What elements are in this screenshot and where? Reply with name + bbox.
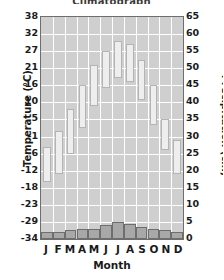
precipitation-bar: [65, 230, 77, 239]
precipitation-bar: [136, 227, 148, 239]
y-axis-right-tick-label: 65: [186, 11, 220, 21]
y-axis-left-tick-label: -18: [2, 182, 38, 192]
temperature-range-bar: [43, 147, 51, 182]
climatograph-figure: Climatograph 3832272116105-1-6-12-18-23-…: [0, 0, 223, 280]
gridline-vertical: [53, 17, 54, 239]
gridline-vertical: [171, 17, 172, 239]
y-axis-left-tick-label: 32: [2, 28, 38, 38]
gridline-vertical: [88, 17, 89, 239]
y-axis-right-tick-label: 50: [186, 62, 220, 72]
y-axis-right-tick-label: 15: [186, 182, 220, 192]
y-axis-right-tick-label: 40: [186, 96, 220, 106]
precipitation-bar: [112, 222, 124, 239]
y-axis-right-tick-label: 25: [186, 148, 220, 158]
precipitation-bar: [77, 229, 89, 239]
x-axis-tick-label: M: [64, 243, 76, 257]
x-axis-tick-label: J: [112, 243, 124, 257]
precipitation-bar: [171, 232, 183, 239]
gridline-vertical: [148, 17, 149, 239]
y-axis-right-ticks: 65605550454035302520151050: [186, 0, 220, 280]
x-axis-tick-label: S: [136, 243, 148, 257]
y-axis-left-tick-label: -23: [2, 199, 38, 209]
x-axis-tick-label: J: [40, 243, 52, 257]
temperature-range-bar: [173, 140, 181, 174]
y-axis-left-tick-label: -34: [2, 233, 38, 243]
temperature-range-bar: [79, 85, 87, 128]
temperature-range-bar: [126, 44, 134, 82]
gridline-vertical: [124, 17, 125, 239]
y-axis-right-tick-label: 60: [186, 28, 220, 38]
y-axis-left-tick-label: 21: [2, 62, 38, 72]
y-axis-right-tick-label: 0: [186, 233, 220, 243]
precipitation-bar: [53, 232, 65, 239]
precipitation-bar: [124, 224, 136, 239]
precipitation-bar: [148, 229, 160, 239]
x-axis-ticks: JFMAMJJASOND: [40, 243, 184, 257]
x-axis-tick-label: D: [172, 243, 184, 257]
precipitation-bar: [100, 225, 112, 239]
x-axis-tick-label: F: [52, 243, 64, 257]
y-axis-right-tick-label: 5: [186, 216, 220, 226]
precipitation-bar: [159, 230, 171, 239]
y-axis-left-title: Temperature (°C): [22, 44, 33, 194]
temperature-range-bar: [150, 85, 158, 125]
y-axis-left-tick-label: 5: [2, 113, 38, 123]
gridline-vertical: [100, 17, 101, 239]
precipitation-bar: [41, 232, 53, 239]
x-axis-tick-label: M: [88, 243, 100, 257]
y-axis-left-tick-label: 38: [2, 11, 38, 21]
x-axis-tick-label: O: [148, 243, 160, 257]
temperature-range-bar: [90, 65, 98, 105]
gridline-vertical: [77, 17, 78, 239]
temperature-range-bar: [67, 109, 75, 153]
y-axis-left-tick-label: 10: [2, 96, 38, 106]
y-axis-left-tick-label: -29: [2, 216, 38, 226]
temperature-range-bar: [138, 60, 146, 100]
plot-area: [40, 16, 184, 240]
y-axis-left-tick-label: -1: [2, 131, 38, 141]
y-axis-right-tick-label: 10: [186, 199, 220, 209]
y-axis-right-title: Precipitation (cm): [220, 46, 224, 206]
precipitation-bar: [88, 229, 100, 239]
x-axis-tick-label: N: [160, 243, 172, 257]
y-axis-right-tick-label: 45: [186, 79, 220, 89]
temperature-range-bar: [161, 119, 169, 150]
y-axis-right-tick-label: 55: [186, 45, 220, 55]
temperature-range-bar: [114, 41, 122, 79]
x-axis-title: Month: [40, 259, 184, 271]
x-axis-tick-label: A: [76, 243, 88, 257]
gridline-vertical: [136, 17, 137, 239]
x-axis-tick-label: J: [100, 243, 112, 257]
x-axis-tick-label: A: [124, 243, 136, 257]
y-axis-left-tick-label: 27: [2, 45, 38, 55]
y-axis-right-tick-label: 30: [186, 131, 220, 141]
temperature-range-bar: [102, 51, 110, 88]
gridline-vertical: [112, 17, 113, 239]
y-axis-right-tick-label: 20: [186, 165, 220, 175]
y-axis-left-tick-label: -12: [2, 165, 38, 175]
y-axis-left-tick-label: -6: [2, 148, 38, 158]
temperature-range-bar: [55, 131, 63, 174]
y-axis-right-tick-label: 35: [186, 113, 220, 123]
gridline-vertical: [159, 17, 160, 239]
y-axis-left-tick-label: 16: [2, 79, 38, 89]
